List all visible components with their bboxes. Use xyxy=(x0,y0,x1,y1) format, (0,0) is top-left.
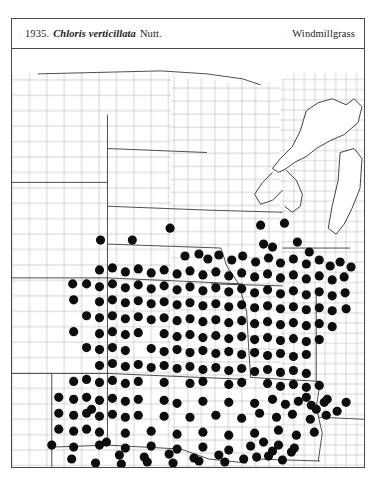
occurrence-dot xyxy=(147,284,156,293)
occurrence-dot xyxy=(134,328,143,337)
occurrence-dot xyxy=(87,405,96,414)
occurrence-dot xyxy=(108,279,117,288)
occurrence-dot xyxy=(147,442,156,451)
occurrence-dot xyxy=(287,447,296,456)
occurrence-dot xyxy=(198,428,207,437)
occurrence-dot xyxy=(302,305,311,314)
occurrence-dot xyxy=(237,364,246,373)
occurrence-dot xyxy=(272,413,281,422)
occurrence-dot xyxy=(198,377,207,386)
occurrence-dot xyxy=(160,297,169,306)
occurrence-dot xyxy=(185,298,194,307)
occurrence-dot xyxy=(121,413,130,422)
occurrence-dot xyxy=(263,317,272,326)
occurrence-dot xyxy=(323,395,332,404)
occurrence-dot xyxy=(224,398,233,407)
occurrence-dot xyxy=(224,446,233,455)
occurrence-dot xyxy=(310,428,319,437)
occurrence-dot xyxy=(121,283,130,292)
occurrence-dot xyxy=(198,365,207,374)
occurrence-dot xyxy=(69,377,78,386)
occurrence-dot xyxy=(95,345,104,354)
occurrence-dot xyxy=(346,262,355,271)
occurrence-dot xyxy=(95,396,104,405)
occurrence-dot xyxy=(276,273,285,282)
occurrence-dot xyxy=(121,429,130,438)
occurrence-dot xyxy=(224,366,233,375)
occurrence-dot xyxy=(185,314,194,323)
occurrence-dot xyxy=(276,289,285,298)
occurrence-dot xyxy=(288,410,297,419)
common-name: Windmillgrass xyxy=(292,28,355,39)
occurrence-dot xyxy=(302,369,311,378)
occurrence-dot xyxy=(315,271,324,280)
occurrence-dot xyxy=(289,352,298,361)
occurrence-dot xyxy=(220,457,229,466)
occurrence-dot xyxy=(276,320,285,329)
occurrence-dot xyxy=(289,302,298,311)
occurrence-dot xyxy=(276,368,285,377)
occurrence-dot xyxy=(160,412,169,421)
occurrence-dot xyxy=(237,284,246,293)
occurrence-dot xyxy=(294,397,303,406)
occurrence-dot xyxy=(185,282,194,291)
occurrence-dot xyxy=(147,299,156,308)
occurrence-dot xyxy=(224,318,233,327)
occurrence-dot xyxy=(134,377,143,386)
occurrence-dot xyxy=(256,221,265,230)
occurrence-dot xyxy=(333,407,342,416)
occurrence-dot xyxy=(198,397,207,406)
occurrence-dot xyxy=(102,438,111,447)
occurrence-dot xyxy=(108,359,117,368)
occurrence-dot xyxy=(276,258,285,267)
occurrence-dot xyxy=(251,257,260,266)
occurrence-dot xyxy=(108,376,117,385)
occurrence-dot xyxy=(302,350,311,359)
occurrence-dot xyxy=(95,297,104,306)
occurrence-dot xyxy=(68,279,77,288)
occurrence-dot xyxy=(289,366,298,375)
occurrence-dot xyxy=(250,272,259,281)
occurrence-dot xyxy=(292,431,301,440)
occurrence-dot xyxy=(246,442,255,451)
occurrence-dot xyxy=(160,396,169,405)
occurrence-dot xyxy=(250,399,259,408)
occurrence-dot xyxy=(211,349,220,358)
occurrence-dot xyxy=(147,344,156,353)
occurrence-dot xyxy=(194,456,203,465)
occurrence-dot xyxy=(172,364,181,373)
occurrence-dot xyxy=(293,237,302,246)
occurrence-dot xyxy=(198,317,207,326)
occurrence-dot xyxy=(108,311,117,320)
distribution-map-frame xyxy=(11,48,365,468)
caption-inner: 1935. Chloris verticillata Nutt. Windmil… xyxy=(12,19,364,48)
occurrence-dot xyxy=(263,269,272,278)
occurrence-dot xyxy=(224,347,233,356)
occurrence-dot xyxy=(276,382,285,391)
occurrence-dot xyxy=(172,345,181,354)
occurrence-dot xyxy=(54,393,63,402)
occurrence-dot xyxy=(54,425,63,434)
occurrence-dot xyxy=(224,334,233,343)
occurrence-dot xyxy=(185,330,194,339)
occurrence-dot xyxy=(305,247,314,256)
occurrence-dot xyxy=(263,351,272,360)
occurrence-dot xyxy=(160,347,169,356)
occurrence-dot xyxy=(342,398,351,407)
occurrence-dot xyxy=(302,274,311,283)
occurrence-dot xyxy=(340,272,349,281)
occurrence-dot xyxy=(82,425,91,434)
occurrence-dot xyxy=(263,365,272,374)
occurrence-dot xyxy=(302,337,311,346)
occurrence-dot xyxy=(274,441,283,450)
occurrence-dot xyxy=(166,224,175,233)
occurrence-dot xyxy=(134,296,143,305)
occurrence-dot xyxy=(268,395,277,404)
occurrence-dot xyxy=(250,429,259,438)
occurrence-dot xyxy=(143,457,152,466)
occurrence-dot xyxy=(276,304,285,313)
occurrence-dot xyxy=(237,332,246,341)
occurrence-dot xyxy=(69,395,78,404)
occurrence-dot xyxy=(227,255,236,264)
occurrence-dot xyxy=(322,411,331,420)
